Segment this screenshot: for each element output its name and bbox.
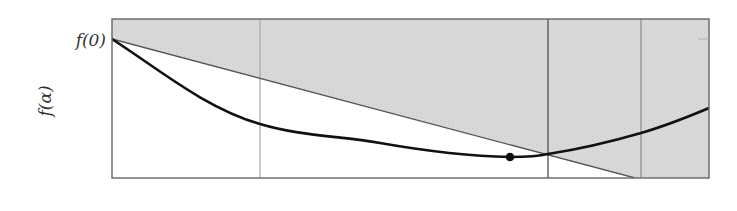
minimizer-marker [506,153,515,162]
y-axis-label: f(α) [35,85,55,118]
f0-label: f(0) [74,30,106,50]
line-search-diagram: f(0) f(α) [0,0,737,211]
